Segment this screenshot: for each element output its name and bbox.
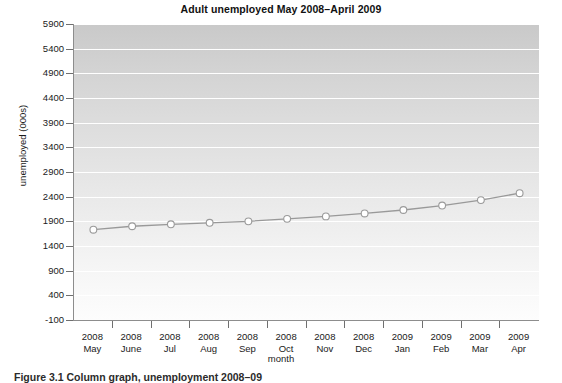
x-axis-tick <box>306 321 307 328</box>
y-axis-labels: 5900540049004400390034002900240019001400… <box>0 0 64 382</box>
y-axis-tick <box>66 271 73 272</box>
y-axis-tick <box>66 320 73 321</box>
y-axis-tick <box>66 295 73 296</box>
data-series-unemployed <box>74 24 539 320</box>
y-axis-tick <box>66 73 73 74</box>
y-axis-tick-label: 400 <box>6 289 64 300</box>
plot-area <box>73 24 539 321</box>
figure-caption: Figure 3.1 Column graph, unemployment 20… <box>14 371 262 383</box>
y-axis-tick <box>66 98 73 99</box>
data-point-marker <box>516 190 523 197</box>
y-axis-tick-label: 5900 <box>6 18 64 29</box>
y-axis-title: unemployed (000s) <box>17 76 28 216</box>
y-axis-tick-label: 2900 <box>6 166 64 177</box>
x-axis-tick <box>422 321 423 328</box>
data-point-marker <box>400 207 407 214</box>
data-point-marker <box>206 219 213 226</box>
y-axis-tick-label: 900 <box>6 265 64 276</box>
y-axis-tick <box>66 147 73 148</box>
y-axis-tick <box>66 172 73 173</box>
y-axis-tick-label: 3400 <box>6 141 64 152</box>
x-axis-tick <box>383 321 384 328</box>
y-axis-tick <box>66 197 73 198</box>
data-point-marker <box>245 218 252 225</box>
y-axis-tick-label: 2400 <box>6 191 64 202</box>
y-axis-tick-label: 4900 <box>6 67 64 78</box>
data-point-marker <box>322 213 329 220</box>
data-point-marker <box>90 226 97 233</box>
x-axis-tick <box>267 321 268 328</box>
data-point-marker <box>477 197 484 204</box>
y-axis-tick-label: 3900 <box>6 117 64 128</box>
y-axis-tick <box>66 123 73 124</box>
y-axis-tick <box>66 24 73 25</box>
x-axis-tick <box>189 321 190 328</box>
series-line <box>93 193 519 230</box>
x-axis-tick <box>112 321 113 328</box>
data-point-marker <box>167 221 174 228</box>
chart-title: Adult unemployed May 2008–April 2009 <box>0 3 562 15</box>
data-point-marker <box>439 202 446 209</box>
y-axis-tick-label: 5400 <box>6 43 64 54</box>
x-axis-category-label: 2009Apr <box>493 331 545 354</box>
y-axis-tick-label: 1400 <box>6 240 64 251</box>
x-axis-tick <box>228 321 229 328</box>
data-point-marker <box>129 223 136 230</box>
y-axis-tick-label: -100 <box>6 314 64 325</box>
data-point-marker <box>284 215 291 222</box>
y-axis-tick-label: 4400 <box>6 92 64 103</box>
x-axis-tick <box>344 321 345 328</box>
x-axis-tick <box>499 321 500 328</box>
x-axis-tick <box>151 321 152 328</box>
x-axis-tick <box>461 321 462 328</box>
data-point-marker <box>361 210 368 217</box>
x-axis-category-line: 2009 <box>493 331 545 343</box>
y-axis-tick <box>66 49 73 50</box>
y-axis-tick-label: 1900 <box>6 215 64 226</box>
x-axis-title: month <box>0 353 562 364</box>
y-axis-tick <box>66 221 73 222</box>
y-axis-tick <box>66 246 73 247</box>
